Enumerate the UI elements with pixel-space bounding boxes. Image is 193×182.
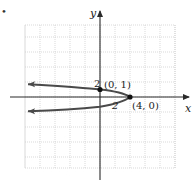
x-axis-label: x	[185, 102, 192, 115]
axes	[10, 11, 189, 180]
axis-labels: yx22(0, 1)(4, 0)	[89, 7, 192, 115]
y-tick-label-2: 2	[94, 78, 100, 89]
x-tick-label-2: 2	[111, 100, 118, 111]
data-point	[127, 94, 132, 99]
y-axis-label: y	[89, 7, 97, 20]
point-label-4-0: (4, 0)	[132, 100, 159, 111]
point-label-0-1: (0, 1)	[104, 79, 131, 90]
parabola-graph: yx22(0, 1)(4, 0)	[0, 0, 193, 182]
